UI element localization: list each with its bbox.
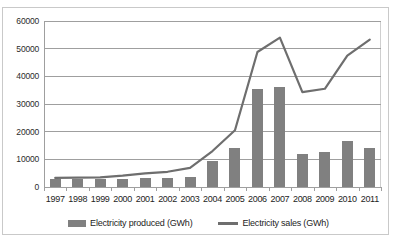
x-tick-mark-12 (314, 187, 315, 191)
x-tick-mark-7 (201, 187, 202, 191)
y-tick-label-50000: 50000 (3, 44, 39, 54)
chart-frame: 0100002000030000400005000060000 19971998… (2, 7, 389, 235)
bar-swatch-icon (68, 220, 86, 227)
x-tick-mark-3 (111, 187, 112, 191)
x-tick-mark-8 (224, 187, 225, 191)
x-tick-mark-13 (336, 187, 337, 191)
x-tick-label-2011: 2011 (355, 194, 385, 204)
plot-area (44, 21, 381, 187)
line-swatch-icon (218, 222, 238, 225)
x-axis-tick-labels: 1997199819992000200120022003200420052006… (38, 194, 388, 208)
y-tick-label-40000: 40000 (3, 71, 39, 81)
line-series-electricity-sales (44, 21, 381, 187)
legend-item-electricity-sales[interactable]: Electricity sales (GWh) (218, 218, 328, 228)
x-tick-mark-10 (269, 187, 270, 191)
y-tick-label-10000: 10000 (3, 154, 39, 164)
x-tick-mark-1 (66, 187, 67, 191)
chart-legend: Electricity produced (GWh) Electricity s… (5, 215, 392, 231)
y-tick-label-60000: 60000 (3, 16, 39, 26)
legend-label-electricity-sales: Electricity sales (GWh) (242, 218, 328, 228)
x-tick-mark-15 (381, 187, 382, 191)
x-tick-mark-5 (156, 187, 157, 191)
y-tick-label-20000: 20000 (3, 127, 39, 137)
chart-title (0, 0, 393, 5)
x-tick-mark-11 (291, 187, 292, 191)
x-tick-mark-14 (359, 187, 360, 191)
x-tick-mark-0 (44, 187, 45, 191)
x-tick-mark-6 (179, 187, 180, 191)
legend-label-electricity-produced: Electricity produced (GWh) (90, 218, 192, 228)
x-tick-mark-2 (89, 187, 90, 191)
y-tick-label-0: 0 (3, 182, 39, 192)
x-tick-mark-4 (134, 187, 135, 191)
y-tick-label-30000: 30000 (3, 99, 39, 109)
x-tick-mark-9 (246, 187, 247, 191)
x-axis-tick-marks (44, 187, 381, 193)
legend-item-electricity-produced[interactable]: Electricity produced (GWh) (68, 218, 192, 228)
